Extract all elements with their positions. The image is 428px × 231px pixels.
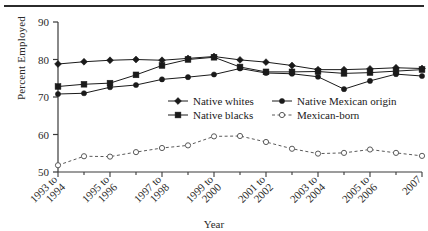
y-tick-label: 70 <box>38 91 50 103</box>
data-point-marker <box>367 147 372 152</box>
legend-marker <box>175 112 181 118</box>
svg-text:2007: 2007 <box>399 173 423 197</box>
legend-marker <box>279 112 284 117</box>
data-point-marker <box>159 77 164 82</box>
x-tick-label: 2007 <box>399 173 423 197</box>
data-point-marker <box>159 145 164 150</box>
data-point-marker <box>393 150 398 155</box>
data-point-marker <box>237 56 244 63</box>
data-point-marker <box>185 75 190 80</box>
data-point-marker <box>185 57 191 63</box>
data-point-marker <box>263 69 269 75</box>
header-rule <box>4 5 424 7</box>
legend-marker <box>279 98 284 103</box>
data-point-marker <box>419 67 425 73</box>
x-axis-ticks <box>58 172 422 177</box>
data-point-marker <box>55 84 61 90</box>
data-point-marker <box>315 69 321 75</box>
x-axis-title: Year <box>0 218 428 230</box>
x-tick-labels: 1993 to19941995 to19961997 to19981999 to… <box>27 173 423 213</box>
legend-entry: Mexican-born <box>272 109 360 121</box>
data-point-marker <box>419 73 424 78</box>
y-axis-ticks: 5060708090 <box>38 16 58 178</box>
y-tick-label: 90 <box>38 16 50 28</box>
data-point-marker <box>393 68 399 74</box>
x-tick-label: 1993 to1994 <box>27 173 67 213</box>
data-point-marker <box>341 70 347 76</box>
x-tick-label: 2003 to2004 <box>287 173 327 213</box>
data-point-marker <box>211 134 216 139</box>
data-point-marker <box>55 61 62 68</box>
data-point-marker <box>185 143 190 148</box>
legend-label: Native blacks <box>193 109 253 121</box>
data-point-marker <box>263 139 268 144</box>
data-point-marker <box>81 58 88 65</box>
legend-entry: Native Mexican origin <box>272 95 397 107</box>
data-point-marker <box>81 91 86 96</box>
data-point-marker <box>315 151 320 156</box>
data-point-marker <box>419 153 424 158</box>
legend-marker <box>175 98 182 105</box>
x-tick-label: 1995 to1996 <box>79 173 119 213</box>
data-point-marker <box>133 72 139 78</box>
legend-entry: Native blacks <box>168 109 253 121</box>
y-axis-title: Percent Employed <box>15 0 27 123</box>
data-point-marker <box>159 63 165 69</box>
data-point-marker <box>55 91 60 96</box>
data-point-marker <box>315 74 320 79</box>
data-point-marker <box>133 82 138 87</box>
data-point-marker <box>341 150 346 155</box>
data-point-marker <box>107 80 113 86</box>
legend-label: Native Mexican origin <box>297 95 397 107</box>
legend-entry: Native whites <box>168 95 254 107</box>
data-point-marker <box>107 57 114 64</box>
data-point-marker <box>289 146 294 151</box>
data-point-marker <box>341 87 346 92</box>
x-tick-label: 1997 to1998 <box>131 173 171 213</box>
y-tick-label: 60 <box>38 129 50 141</box>
data-point-marker <box>133 56 140 63</box>
legend-label: Mexican-born <box>297 109 360 121</box>
legend-label: Native whites <box>193 95 254 107</box>
data-point-marker <box>81 154 86 159</box>
data-point-marker <box>367 78 372 83</box>
plot-area: 5060708090 1993 to19941995 to19961997 to… <box>0 0 428 231</box>
data-point-marker <box>237 133 242 138</box>
data-point-marker <box>211 54 217 60</box>
data-point-marker <box>107 154 112 159</box>
data-point-marker <box>55 163 60 168</box>
data-point-marker <box>367 70 373 76</box>
data-point-marker <box>133 150 138 155</box>
x-tick-label: 2001 to2002 <box>235 173 275 213</box>
chart-legend: Native whitesNative Mexican originNative… <box>168 95 397 121</box>
data-point-marker <box>289 69 295 75</box>
data-point-marker <box>263 59 270 66</box>
data-point-marker <box>211 72 216 77</box>
data-point-marker <box>237 64 243 70</box>
y-tick-label: 80 <box>38 54 50 66</box>
data-point-marker <box>81 81 87 87</box>
data-point-marker <box>289 62 296 69</box>
chart-figure: Percent Employed Year 5060708090 1993 to… <box>0 0 428 231</box>
x-tick-label: 1999 to2000 <box>183 173 223 213</box>
x-tick-label: 2005 to2006 <box>339 173 379 213</box>
